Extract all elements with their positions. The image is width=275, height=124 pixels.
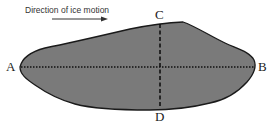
motion-caption: Direction of ice motion [25,5,109,15]
point-c-label: C [155,7,164,22]
point-d-label: D [155,109,164,124]
ice-body-shape [20,22,255,110]
point-b-label: B [258,59,267,74]
motion-arrow-icon [52,17,108,22]
point-a-label: A [6,59,16,74]
ice-motion-diagram: Direction of ice motion A B C D [0,0,275,124]
